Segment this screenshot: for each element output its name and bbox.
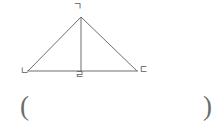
triangle-svg (0, 0, 223, 92)
vertex-label-bottom-right: ㄷ (139, 65, 148, 75)
vertex-label-altitude-foot: ㄹ (75, 70, 84, 80)
diagram-page: ㄱ ㄴ ㄷ ㄹ ( ) (0, 0, 223, 124)
triangle-figure: ㄱ ㄴ ㄷ ㄹ (0, 0, 223, 92)
vertex-label-apex: ㄱ (73, 2, 82, 12)
triangle-side-right (81, 17, 137, 71)
answer-blank[interactable] (34, 92, 200, 122)
triangle-side-left (28, 17, 81, 71)
answer-row: ( ) (0, 90, 223, 124)
vertex-label-bottom-left: ㄴ (20, 66, 29, 76)
answer-close-paren: ) (203, 90, 212, 122)
answer-open-paren: ( (20, 90, 29, 122)
